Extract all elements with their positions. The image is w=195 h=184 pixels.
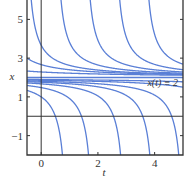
x-tick-label: 4 [152,157,158,169]
y-tick-label: 1 [18,91,24,103]
solution-curve [143,0,183,64]
y-tick-label: 3 [18,52,24,64]
solution-curve [27,90,68,184]
solution-curve [85,0,183,72]
x-tick-label: 2 [95,157,101,169]
solution-curve [27,0,183,74]
y-tick-label: −1 [11,130,23,142]
equilibrium-annotation: x(t) ≡ 2 [146,77,178,89]
solution-curve [27,82,155,184]
solution-curves [27,0,183,184]
y-tick-label: 5 [18,13,24,25]
y-axis-label: x [9,70,15,82]
x-tick-label: 0 [38,157,44,169]
chart: 024−1135 t x x(t) ≡ 2 [0,0,195,184]
x-axis-label: t [102,166,106,178]
